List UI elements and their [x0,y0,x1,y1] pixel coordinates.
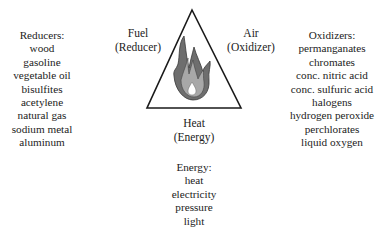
list-item: liquid oxygen [278,136,386,149]
list-item: light [154,215,234,228]
air-label-title: Air [214,26,288,40]
list-item: chromates [278,56,386,69]
heat-label-title: Heat [157,116,231,130]
list-item: conc. nitric acid [278,69,386,82]
air-label-subtitle: (Oxidizer) [214,40,288,54]
reducers-title: Reducers: [0,29,84,42]
energy-title: Energy: [154,161,234,174]
list-item: natural gas [0,109,84,122]
fuel-label: Fuel (Reducer) [103,26,173,54]
list-item: bisulfites [0,83,84,96]
list-item: acetylene [0,96,84,109]
oxidizers-list: Oxidizers: permanganates chromates conc.… [278,29,386,150]
list-item: hydrogen peroxide [278,109,386,122]
list-item: heat [154,174,234,187]
fuel-label-subtitle: (Reducer) [103,40,173,54]
air-label: Air (Oxidizer) [214,26,288,54]
heat-label-subtitle: (Energy) [157,130,231,144]
list-item: aluminum [0,136,84,149]
list-item: gasoline [0,56,84,69]
list-item: vegetable oil [0,69,84,82]
fuel-label-title: Fuel [103,26,173,40]
list-item: perchlorates [278,123,386,136]
list-item: permanganates [278,42,386,55]
list-item: conc. sulfuric acid [278,83,386,96]
reducers-list: Reducers: wood gasoline vegetable oil bi… [0,29,84,150]
flame-icon [174,36,210,100]
list-item: sodium metal [0,123,84,136]
list-item: halogens [278,96,386,109]
heat-label: Heat (Energy) [157,116,231,144]
list-item: pressure [154,201,234,214]
energy-list: Energy: heat electricity pressure light [154,161,234,228]
oxidizers-title: Oxidizers: [278,29,386,42]
list-item: wood [0,42,84,55]
list-item: electricity [154,188,234,201]
